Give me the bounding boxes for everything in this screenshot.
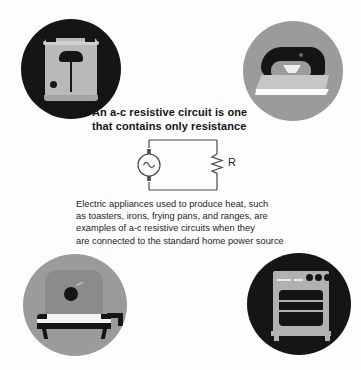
circuit-svg bbox=[127, 136, 239, 194]
ac-source-terminal-bottom bbox=[147, 176, 151, 181]
ac-sine-wave bbox=[144, 162, 155, 167]
caption-line-3: examples of a-c resistive circuits when … bbox=[76, 222, 306, 234]
pan-rim-edge-left bbox=[37, 314, 47, 319]
headline: An a-c resistive circuit is one that con… bbox=[92, 106, 272, 133]
range-oven-bar-2 bbox=[279, 310, 323, 312]
range-oven-door bbox=[279, 290, 323, 326]
badge-range bbox=[247, 253, 351, 355]
iron-soleplate bbox=[255, 89, 329, 95]
headline-line-1: An a-c resistive circuit is one bbox=[92, 106, 272, 120]
headline-line-2: that contains only resistance bbox=[92, 120, 272, 134]
pan-body bbox=[37, 323, 111, 329]
caption-line-4: are connected to the standard home power… bbox=[76, 235, 306, 247]
caption-line-2: as toasters, irons, frying pans, and ran… bbox=[76, 210, 306, 222]
range-backsplash-mark-right bbox=[294, 279, 303, 281]
resistor-zigzag bbox=[212, 154, 222, 176]
range-plinth bbox=[271, 331, 331, 336]
pan-leg-right bbox=[101, 328, 107, 339]
pan-lid-knob bbox=[64, 287, 78, 301]
caption-line-1: Electric appliances used to produce heat… bbox=[76, 198, 306, 210]
toaster-base bbox=[44, 95, 98, 101]
toaster-slot-left bbox=[46, 37, 56, 42]
pan-handle-grip bbox=[118, 313, 123, 326]
range-oven-bar-1 bbox=[279, 300, 323, 302]
iron-handle-dot bbox=[299, 53, 303, 57]
iron-body bbox=[255, 75, 329, 91]
caption: Electric appliances used to produce heat… bbox=[76, 198, 306, 247]
range-dial-1 bbox=[306, 274, 313, 281]
badge-frying-pan bbox=[23, 254, 127, 356]
range-dial-2 bbox=[315, 274, 322, 281]
toaster-slot-right bbox=[85, 37, 95, 42]
toaster-handle-stem bbox=[70, 60, 72, 92]
illustration-page: An a-c resistive circuit is one that con… bbox=[0, 0, 361, 370]
range-foot-left bbox=[274, 336, 279, 341]
resistor-label: R bbox=[228, 156, 236, 168]
range-dial-3 bbox=[324, 274, 331, 281]
circuit-diagram: R bbox=[127, 136, 239, 194]
badge-toaster bbox=[21, 19, 121, 119]
ac-source-terminal-top bbox=[147, 149, 151, 154]
range-foot-right bbox=[325, 336, 330, 341]
pan-leg-left bbox=[42, 328, 48, 339]
range-backsplash-mark-left bbox=[277, 279, 291, 281]
toaster-knob bbox=[50, 81, 57, 88]
